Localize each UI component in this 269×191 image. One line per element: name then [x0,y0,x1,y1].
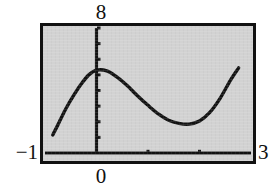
x-max-label: 3 [258,142,269,163]
x-origin-label: 0 [87,166,115,187]
x-min-label: −1 [2,142,38,163]
plot-canvas [43,26,253,161]
figure-root: 8 −1 3 0 [0,0,269,191]
function-curve [53,68,239,135]
plot-frame [40,23,256,164]
y-max-label: 8 [88,2,114,23]
